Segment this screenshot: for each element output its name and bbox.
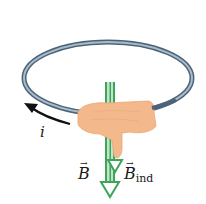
induced-field-label: → B ind [124,166,153,182]
diagram-svg [0,0,206,204]
vector-arrow-icon: → [80,159,88,168]
right-hand [78,100,176,158]
induced-field-subscript: ind [136,172,154,185]
field-vector: → B [78,166,90,182]
current-label: i [40,125,45,140]
vector-arrow-icon: → [126,159,134,168]
induced-field-vector: → B [124,166,136,182]
field-label: → B [78,166,90,182]
current-symbol: i [40,123,45,141]
diagram-canvas: i → B → B ind [0,0,206,204]
